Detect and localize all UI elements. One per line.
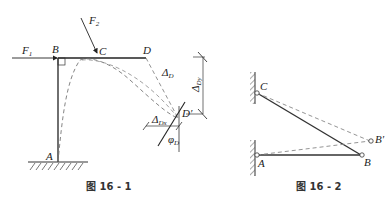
label-B: B <box>364 156 371 168</box>
label-A: A <box>257 157 265 169</box>
label-A: A <box>45 150 53 162</box>
label-phi-D: φD <box>168 133 179 147</box>
label-F1: F1 <box>21 44 32 58</box>
figure-16-2: C A B B′ 图 16 - 2 <box>250 72 385 192</box>
deformed-CB <box>257 93 370 141</box>
label-C: C <box>260 80 268 92</box>
diagram-canvas: F1 F2 B C D A D′ ΔD ΔDx φD ΔDy 图 16 - 1 … <box>0 0 388 203</box>
caption-fig-16-2: 图 16 - 2 <box>296 181 342 192</box>
label-delta-D: ΔD <box>161 66 174 80</box>
label-F2: F2 <box>88 14 100 28</box>
hinge-C <box>255 91 259 95</box>
deflected-curve <box>58 59 178 162</box>
label-D-prime: D′ <box>181 107 193 119</box>
figure-16-1: F1 F2 B C D A D′ ΔD ΔDx φD ΔDy 图 16 - 1 <box>12 14 207 192</box>
label-delta-Dx: ΔDx <box>151 113 168 127</box>
label-delta-Dy: ΔDy <box>189 76 203 93</box>
wall-C-hatch <box>250 72 255 104</box>
label-B: B <box>52 43 59 55</box>
member-CB <box>257 93 361 155</box>
label-D: D <box>142 44 151 56</box>
hinge-B-prime <box>369 139 373 143</box>
right-angle-mark <box>58 58 65 65</box>
caption-fig-16-1: 图 16 - 1 <box>86 181 132 192</box>
label-B-prime: B′ <box>375 133 385 145</box>
ground-hatch <box>30 163 83 170</box>
label-C: C <box>99 45 107 57</box>
deformed-AB <box>257 141 370 155</box>
wall-A-hatch <box>250 140 255 176</box>
